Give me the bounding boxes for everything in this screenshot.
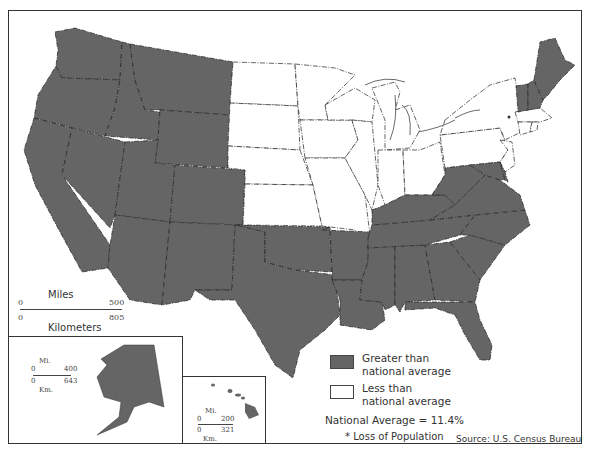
state-maine [534, 38, 575, 100]
state-connecticut [518, 122, 532, 135]
alaska-scale-km-start: 0 [31, 377, 35, 385]
legend-label-less: Less than national average [362, 382, 451, 408]
hawaii-scale-mi-label: Mi. [205, 407, 217, 415]
loss-of-population-note: * Loss of Population [345, 430, 444, 443]
alaska-scale-km-end: 643 [64, 377, 77, 385]
scale-miles-end: 500 [109, 298, 124, 307]
scale-km-start: 0 [18, 313, 23, 322]
hawaii-scale-mi-start: 0 [197, 415, 201, 423]
scale-bar [20, 309, 122, 310]
hawaii-scale-mi-end: 200 [221, 415, 234, 423]
state-kansas [243, 184, 322, 226]
alaska-scale-bar [33, 375, 71, 376]
hawaii-scale-km-end: 321 [221, 426, 234, 434]
alaska-scale-km-label: Km. [39, 386, 53, 394]
legend-greater-line2: national average [362, 365, 451, 378]
loss-of-population-marker [508, 116, 511, 119]
alaska-inset: Mi. 0 400 0 643 Km. [8, 336, 183, 444]
legend-greater-line1: Greater than [362, 352, 451, 365]
state-arizona [108, 215, 170, 305]
hawaii-scale-km-start: 0 [197, 426, 201, 434]
legend-label-greater: Greater than national average [362, 352, 451, 378]
alaska-map [9, 337, 184, 445]
state-washington [55, 28, 122, 80]
alaska-scale-mi-label: Mi. [39, 357, 51, 365]
state-michigan [372, 82, 420, 150]
scale-km-label: Kilometers [48, 322, 102, 333]
legend-less-line2: national average [362, 395, 451, 408]
legend-swatch-less [330, 385, 354, 399]
alaska-scale-mi-start: 0 [31, 365, 35, 373]
scale-miles-start: 0 [18, 298, 23, 307]
national-average: National Average = 11.4% [325, 414, 464, 427]
state-vermont [516, 84, 528, 112]
source-credit: Source: U.S. Census Bureau [456, 433, 581, 446]
hawaii-scale-bar [198, 424, 233, 425]
state-south-dakota [228, 103, 300, 150]
hawaii-inset: Mi. 0 200 0 321 Km. [182, 376, 266, 444]
legend-swatch-greater [330, 355, 354, 369]
state-wyoming [155, 110, 230, 168]
alaska-scale-mi-end: 400 [64, 365, 77, 373]
hawaii-scale-km-label: Km. [203, 435, 217, 443]
scale-km-end: 805 [109, 313, 124, 322]
legend-less-line1: Less than [362, 382, 451, 395]
state-montana [130, 44, 233, 115]
state-north-dakota [230, 62, 298, 106]
scale-miles-label: Miles [48, 289, 74, 300]
state-colorado [170, 165, 245, 225]
hawaii-map [183, 377, 267, 445]
